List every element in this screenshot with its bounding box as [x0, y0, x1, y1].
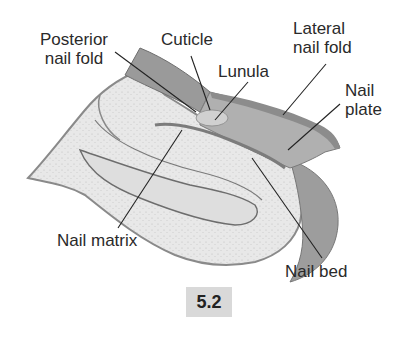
nail-diagram: Posterior nail fold Cuticle Lunula Later… [0, 0, 405, 339]
figure-number-badge: 5.2 [186, 287, 232, 317]
leader-lateral-nail-fold [283, 64, 326, 115]
label-nail-plate: Nail plate [345, 81, 382, 119]
label-line: nail fold [24, 49, 124, 68]
label-lateral-nail-fold: Lateral nail fold [293, 19, 352, 57]
label-nail-bed: Nail bed [285, 262, 347, 281]
label-cuticle: Cuticle [161, 30, 213, 49]
label-line: plate [345, 100, 382, 119]
label-line: nail fold [293, 38, 352, 57]
label-nail-matrix: Nail matrix [57, 231, 137, 250]
label-line: Lateral [293, 19, 352, 38]
label-line: Nail [345, 81, 382, 100]
label-line: Posterior [24, 30, 124, 49]
label-posterior-nail-fold: Posterior nail fold [24, 30, 124, 68]
label-lunula: Lunula [218, 62, 269, 81]
lunula [196, 110, 228, 126]
